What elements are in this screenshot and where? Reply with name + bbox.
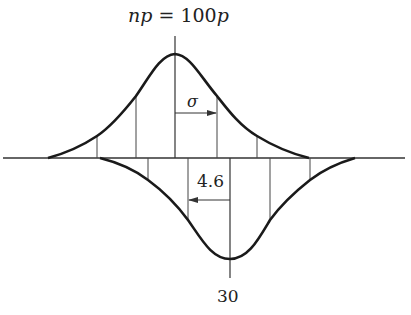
upper-sigma-lines: [97, 96, 257, 158]
lower-sigma-lines: [148, 158, 310, 220]
diagram-canvas: [0, 0, 411, 315]
formula-number: 100: [180, 4, 216, 26]
formula-np: np: [128, 4, 152, 26]
formula-p: p: [217, 4, 229, 26]
normal-distribution-diagram: np = 100p σ 4.6 30: [0, 0, 411, 315]
shift-value-label: 4.6: [197, 171, 224, 191]
lower-bell-curve: [100, 158, 355, 259]
formula-equals: =: [152, 4, 180, 26]
mean-value-label: 30: [217, 286, 239, 306]
sigma-label: σ: [187, 92, 198, 111]
upper-bell-curve: [48, 54, 309, 158]
formula-label: np = 100p: [128, 4, 229, 26]
